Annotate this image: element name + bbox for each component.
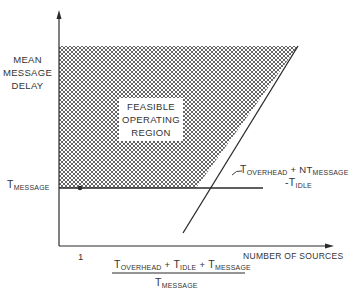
region-label-line: FEASIBLE — [122, 100, 180, 113]
t-symbol: T — [240, 163, 247, 175]
region-label-line: OPERATING — [122, 113, 180, 126]
t-subscript: MESSAGE — [215, 264, 251, 271]
t-symbol: T — [114, 258, 121, 270]
x-formula-numerator: TOVERHEAD + TIDLE + TMESSAGE — [114, 258, 251, 274]
t-subscript: MESSAGE — [313, 169, 349, 176]
y-axis-label: MEAN MESSAGE DELAY — [0, 53, 55, 92]
diagonal-formula-line2: -TIDLE — [285, 176, 312, 192]
region-label-line: REGION — [122, 126, 180, 139]
x-formula-denominator: TMESSAGE — [155, 276, 198, 292]
t-subscript: IDLE — [180, 264, 196, 271]
t-subscript: IDLE — [296, 182, 312, 189]
t-subscript: MESSAGE — [14, 184, 50, 191]
plus-nt-operator: + NT — [288, 164, 313, 175]
t-subscript: OVERHEAD — [121, 264, 162, 271]
t-symbol: T — [208, 258, 215, 270]
min-point-dot — [78, 186, 82, 190]
t-symbol: T — [7, 178, 14, 190]
x-axis-label: NUMBER OF SOURCES — [243, 250, 344, 263]
feasible-region-label: FEASIBLE OPERATING REGION — [119, 98, 183, 141]
y-axis-label-line: DELAY — [0, 79, 55, 92]
minus-t-symbol: -T — [285, 176, 296, 188]
plus-operator: + — [165, 259, 171, 270]
y-tick-t-message: TMESSAGE — [7, 178, 50, 194]
x-axis-arrow-icon — [325, 244, 334, 249]
t-subscript: MESSAGE — [162, 282, 198, 289]
y-axis-label-line: MEAN — [0, 53, 55, 66]
t-subscript: OVERHEAD — [247, 169, 288, 176]
plus-operator: + — [199, 259, 205, 270]
t-symbol: T — [155, 276, 162, 288]
y-axis-label-line: MESSAGE — [0, 66, 55, 79]
x-tick-one: 1 — [78, 250, 84, 263]
y-axis-arrow-icon — [57, 10, 62, 19]
